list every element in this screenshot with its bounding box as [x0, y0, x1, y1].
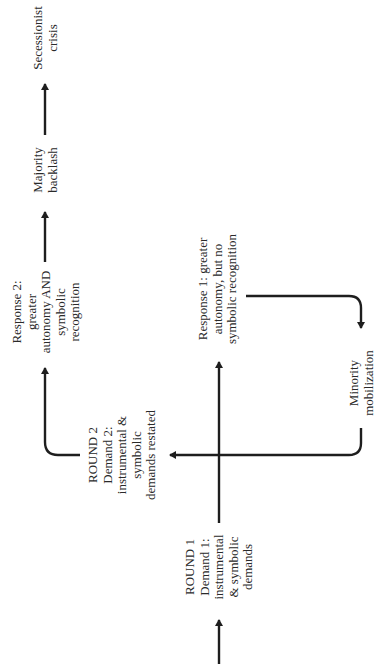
node-line: Response 2:	[10, 271, 25, 354]
node-line: symbolic recognition	[225, 234, 240, 344]
node-line: crisis	[45, 6, 60, 70]
node-line: mobilization	[361, 350, 376, 416]
node-line: instrumental	[212, 535, 227, 600]
node-line: Majority	[31, 147, 46, 193]
node-line: autonomy, but no	[211, 234, 226, 344]
node-line: symbolic	[129, 410, 144, 500]
node-line: ROUND 1	[183, 535, 198, 600]
arrow-round2-to-response2	[45, 368, 80, 455]
node-line: Demand 1:	[197, 535, 212, 600]
node-line: Minority	[347, 350, 362, 416]
node-round2-demand2: ROUND 2 Demand 2: instrumental & symboli…	[86, 410, 159, 500]
node-response2: Response 2: greater autonomy AND symboli…	[10, 271, 83, 354]
node-line: recognition	[68, 271, 83, 354]
arrow-minority-to-round2	[170, 428, 361, 455]
node-line: symbolic	[53, 271, 68, 354]
node-line: greater	[24, 271, 39, 354]
node-secessionist-crisis: Secessionist crisis	[31, 6, 60, 70]
node-line: autonomy AND	[39, 271, 54, 354]
arrow-response1-to-minority	[246, 296, 361, 328]
node-round1-demand1: ROUND 1 Demand 1: instrumental & symboli…	[183, 535, 256, 600]
flow-diagram: ROUND 1 Demand 1: instrumental & symboli…	[0, 0, 388, 664]
node-line: backlash	[45, 147, 60, 193]
node-line: demands	[241, 535, 256, 600]
node-line: Response 1: greater	[196, 234, 211, 344]
node-line: ROUND 2	[86, 410, 101, 500]
node-majority-backlash: Majority backlash	[31, 147, 60, 193]
node-line: demands restated	[144, 410, 159, 500]
node-line: Secessionist	[31, 6, 46, 70]
node-line: instrumental &	[115, 410, 130, 500]
node-line: Demand 2:	[100, 410, 115, 500]
node-line: & symbolic	[226, 535, 241, 600]
node-minority-mobilization: Minority mobilization	[347, 350, 376, 416]
node-response1: Response 1: greater autonomy, but no sym…	[196, 234, 240, 344]
